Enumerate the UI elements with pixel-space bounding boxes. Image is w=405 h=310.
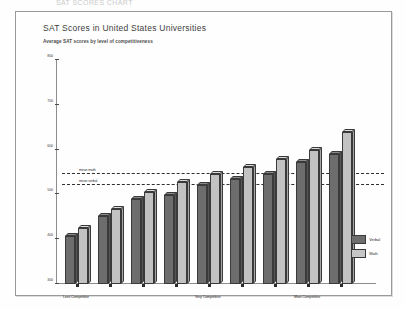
chart-subtitle: Average SAT scores by level of competiti… (43, 39, 153, 44)
y-axis-label: 500 (47, 189, 53, 193)
bar-verbal (329, 154, 339, 284)
x-axis-tick (142, 284, 145, 287)
bar-math (78, 228, 88, 284)
y-axis-label: 300 (47, 278, 53, 282)
clipped-header-text: SAT SCORES CHART (56, 0, 186, 8)
x-axis-tick (241, 284, 244, 287)
bar-verbal (98, 216, 108, 284)
y-axis-tick (55, 59, 59, 60)
chart-title: SAT Scores in United States Universities (43, 23, 206, 33)
x-axis-label: Most Competitive (294, 295, 320, 299)
bar-math (276, 159, 286, 284)
legend-swatch-math (351, 249, 366, 258)
bar-math (144, 192, 154, 284)
bar-math (309, 150, 319, 284)
bar-verbal (296, 162, 306, 284)
screenshot-root: SAT SCORES CHART SAT Scores in United St… (0, 0, 405, 310)
y-axis-tick (55, 104, 59, 105)
y-axis-tick (55, 193, 59, 194)
bar-verbal (65, 236, 75, 284)
bar-math (177, 182, 187, 284)
bar-math (111, 209, 121, 284)
bar-math (243, 167, 253, 284)
y-axis-label: 800 (47, 54, 53, 58)
legend-item-verbal: Verbal (351, 235, 380, 244)
reference-line-label: mean math (78, 168, 97, 172)
y-axis-tick (55, 238, 59, 239)
x-axis-tick (274, 284, 277, 287)
y-axis-label: 600 (47, 144, 53, 148)
y-axis-tick (55, 283, 59, 284)
y-axis-label: 400 (47, 234, 53, 238)
y-axis-line (56, 60, 57, 284)
x-axis-label: Less Competitive (63, 295, 89, 299)
bar-math (210, 174, 220, 284)
bar-verbal (230, 179, 240, 284)
legend-swatch-verbal (351, 235, 366, 244)
legend-item-math: Math (351, 249, 380, 258)
x-axis-tick (175, 284, 178, 287)
y-axis-tick (55, 149, 59, 150)
x-axis-tick (307, 284, 310, 287)
x-axis-tick (340, 284, 343, 287)
x-axis-tick (208, 284, 211, 287)
bar-verbal (164, 195, 174, 284)
x-axis-label: Very Competitive (195, 295, 221, 299)
legend-label-math: Math (369, 251, 378, 256)
legend-label-verbal: Verbal (369, 237, 380, 242)
y-axis-label: 700 (47, 99, 53, 103)
bar-verbal (131, 199, 141, 284)
x-axis-tick (76, 284, 79, 287)
plot-area: 300400500600700800 mean mathmean verbal … (56, 60, 376, 288)
chart-card: SAT Scores in United States Universities… (15, 11, 392, 296)
reference-line-label: mean verbal (78, 178, 98, 182)
bar-verbal (263, 174, 273, 284)
bar-verbal (197, 185, 207, 284)
chart-legend: Verbal Math (351, 235, 380, 263)
x-axis-tick (109, 284, 112, 287)
